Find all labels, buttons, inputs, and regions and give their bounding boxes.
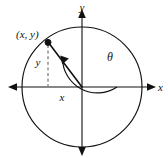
y-axis-down-arrow-icon: [78, 147, 86, 156]
terminal-ray-segment: [49, 43, 82, 87]
terminal-point-marker: [45, 39, 51, 45]
x-axis-left-arrow-icon: [8, 83, 17, 91]
angle-theta-label: θ: [107, 50, 113, 64]
unit-circle-diagram: y x (x, y) y x θ: [0, 0, 168, 158]
vertical-leg-label: y: [35, 56, 41, 68]
x-axis-label: x: [157, 81, 163, 93]
point-coordinates-label: (x, y): [16, 28, 39, 41]
y-axis-label: y: [79, 1, 85, 13]
x-axis-right-arrow-icon: [147, 83, 156, 91]
unit-circle-figure: y x (x, y) y x θ: [0, 0, 168, 158]
horizontal-leg-label: x: [59, 91, 65, 103]
